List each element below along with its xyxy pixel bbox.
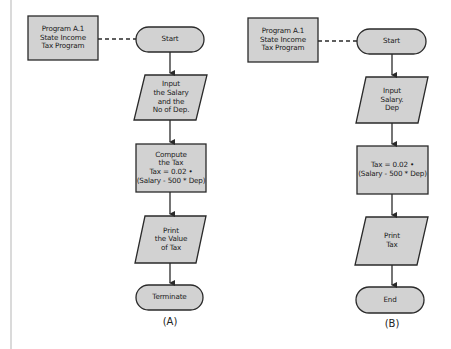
start-label-b: Start	[357, 29, 426, 54]
end-label-b: End	[356, 287, 424, 313]
annotation-text-a: Program A.1 State Income Tax Program	[28, 16, 98, 60]
print-label-b: Print Tax	[357, 217, 427, 265]
input-label-a: Input the Salary and the No of Dep.	[136, 75, 206, 120]
tax-label-b: Tax = 0.02 • (Salary - 500 * Dep)	[357, 146, 428, 194]
input-label-b: Input Salary. Dep	[357, 77, 427, 123]
terminate-label-a: Terminate	[136, 285, 203, 310]
compute-label-a: Compute the Tax Tax = 0.02 • (Salary - 5…	[136, 144, 206, 192]
annotation-text-b: Program A.1 State Income Tax Program	[248, 18, 318, 62]
print-label-a: Print the Value of Tax	[136, 216, 206, 263]
caption-a: (A)	[155, 316, 185, 327]
start-label-a: Start	[136, 27, 204, 52]
caption-b: (B)	[377, 318, 407, 329]
